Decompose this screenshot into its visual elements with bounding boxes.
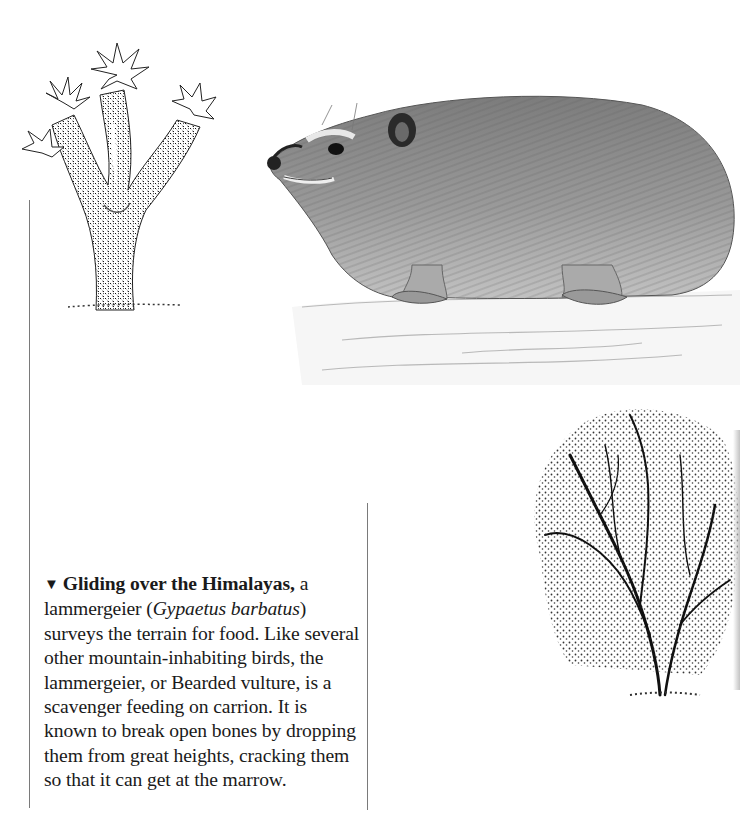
caption-species-name: Gypaetus barbatus [153, 598, 300, 619]
caption-text-2: ) surveys the terrain for food. Like sev… [44, 598, 359, 790]
caption-lead: Gliding over the Himalayas, [63, 573, 295, 594]
figure-caption: ▼Gliding over the Himalayas, a lammergei… [44, 572, 364, 793]
column-rule-right [367, 503, 368, 810]
cactus-illustration [12, 35, 244, 315]
shrub-illustration [520, 395, 740, 705]
page-edge-shadow [733, 430, 740, 690]
triangle-down-icon: ▼ [44, 576, 59, 592]
hyrax-illustration [262, 85, 740, 385]
